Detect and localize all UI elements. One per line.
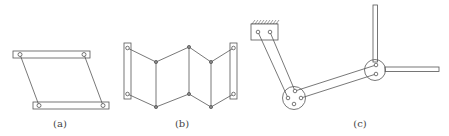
- pivot-icon: [82, 53, 86, 57]
- pivot-icon: [299, 96, 303, 100]
- pivot-icon: [292, 102, 296, 106]
- rod: [258, 32, 288, 98]
- joint-icon: [187, 92, 190, 95]
- pivot-icon: [232, 92, 236, 96]
- pivot-icon: [18, 53, 22, 57]
- joint-icon: [209, 105, 212, 108]
- panel-label-b: (b): [175, 118, 189, 129]
- pivot-icon: [126, 46, 130, 50]
- panel-a-linkage: [13, 51, 109, 109]
- pivot-icon: [256, 30, 260, 34]
- left-fixed-bar: [124, 43, 131, 99]
- right-rocker: [84, 55, 103, 106]
- bottom-chain: [128, 94, 234, 107]
- linkage-diagram: [0, 0, 449, 136]
- pivot-icon: [126, 92, 130, 96]
- pivot-icon: [268, 30, 272, 34]
- left-rocker: [20, 55, 39, 106]
- panel-label-a: (a): [53, 118, 67, 129]
- pivot-icon: [37, 104, 41, 108]
- ground-hatch-icon: [251, 20, 279, 24]
- pivot-icon: [374, 63, 378, 67]
- panel-c-linkage: [251, 5, 439, 110]
- right-fixed-bar: [230, 43, 237, 99]
- rod: [301, 74, 376, 98]
- horizontal-output-bar: [385, 67, 439, 72]
- joint-icon: [154, 105, 157, 108]
- pivot-icon: [293, 89, 297, 93]
- rod: [270, 32, 295, 91]
- joint-icon: [209, 60, 212, 63]
- panel-label-c: (c): [353, 118, 366, 129]
- pivot-icon: [374, 72, 378, 76]
- right-hub: [365, 60, 386, 81]
- panel-b-linkage: [124, 43, 237, 109]
- top-link-bar: [13, 51, 90, 58]
- pivot-icon: [232, 46, 236, 50]
- joint-icon: [154, 60, 157, 63]
- ground-block: [251, 24, 278, 40]
- bottom-link-bar: [33, 102, 109, 109]
- pivot-icon: [286, 96, 290, 100]
- top-chain: [128, 47, 234, 62]
- joint-icon: [187, 45, 190, 48]
- pivot-icon: [101, 104, 105, 108]
- vertical-output-bar: [373, 5, 378, 62]
